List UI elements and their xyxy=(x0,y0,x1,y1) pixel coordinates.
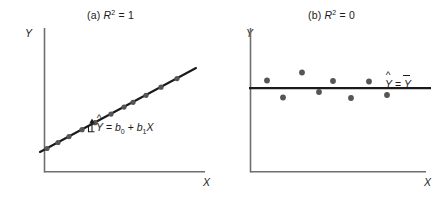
panel-b-yhat: ^Y xyxy=(385,78,392,90)
panel-a-plot xyxy=(0,0,221,201)
data-point xyxy=(121,105,126,110)
data-point xyxy=(79,127,84,132)
panel-a-eq-equals: = xyxy=(103,121,115,133)
data-point xyxy=(108,112,113,117)
data-point xyxy=(280,95,286,101)
panel-b-plot xyxy=(221,0,442,201)
panel-a-eq-x: X xyxy=(146,121,153,133)
data-point xyxy=(130,100,135,105)
figure-r-squared-comparison: (a) R2 = 1 Y X xyxy=(0,0,443,201)
panel-a-regression-line xyxy=(40,68,196,152)
data-point xyxy=(158,85,163,90)
panel-a-hat-mark: ^ xyxy=(96,113,102,123)
data-point xyxy=(366,79,372,85)
panel-b-bar-mark xyxy=(403,75,409,76)
panel-b-ybar: Y xyxy=(404,78,411,90)
data-point xyxy=(316,89,322,95)
data-point xyxy=(55,140,60,145)
panel-b-eq-equals: = xyxy=(392,78,404,90)
data-point xyxy=(143,93,148,98)
data-point xyxy=(66,134,71,139)
panel-b-data-points xyxy=(264,70,390,101)
panel-a-eq-plus: + xyxy=(125,121,137,133)
panel-a-r2-one: (a) R2 = 1 Y X xyxy=(0,0,221,201)
data-point xyxy=(44,146,49,151)
data-point xyxy=(174,76,179,81)
panel-b-r2-zero: (b) R2 = 0 Y X xyxy=(221,0,442,201)
panel-a-equation-label: ^Y = b0 + b1X xyxy=(96,121,153,133)
data-point xyxy=(264,78,270,84)
data-point xyxy=(348,95,354,101)
data-point xyxy=(330,78,336,84)
data-point xyxy=(384,92,390,98)
panel-a-yhat: ^Y xyxy=(96,121,103,133)
panel-b-equation-label: ^Y = Y xyxy=(385,78,411,90)
panel-b-hat-mark: ^ xyxy=(385,70,391,80)
data-point xyxy=(299,70,305,76)
panel-b-ybar-letter: Y xyxy=(404,78,411,90)
